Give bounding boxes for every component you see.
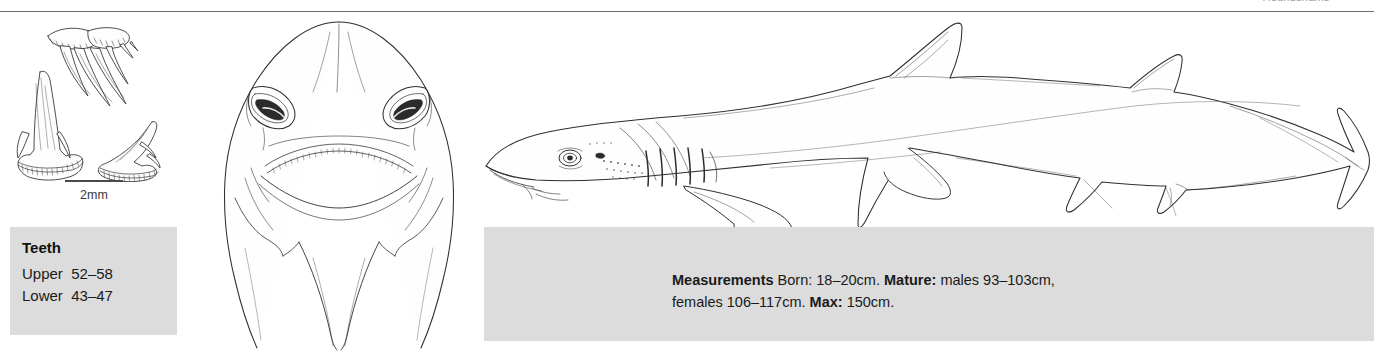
measurements-caption: Measurements Born: 18–20cm. Mature: male… <box>672 270 1092 314</box>
scale-bar-label: 2mm <box>52 188 136 202</box>
teeth-upper-label: Upper <box>22 265 63 282</box>
measurements-info-box: Measurements Born: 18–20cm. Mature: male… <box>484 227 1374 341</box>
shark-teeth-illustration <box>2 22 178 182</box>
measurements-born-label: Born: <box>778 272 813 288</box>
teeth-row-upper: Upper 52–58 <box>22 263 177 285</box>
header-rule <box>0 11 1374 12</box>
teeth-upper-value: 52–58 <box>71 265 113 282</box>
clipped-page-header: Houndsharks <box>1263 0 1330 3</box>
shark-head-ventral-illustration <box>193 18 485 351</box>
measurements-max-value: 150cm. <box>847 294 895 310</box>
teeth-lower-label: Lower <box>22 287 63 304</box>
teeth-info-box: Teeth Upper 52–58 Lower 43–47 <box>10 227 177 335</box>
teeth-row-lower: Lower 43–47 <box>22 285 177 307</box>
measurements-title: Measurements <box>672 272 774 288</box>
scale-bar-icon <box>65 180 123 182</box>
teeth-lower-value: 43–47 <box>71 287 113 304</box>
measurements-max-label: Max: <box>810 294 843 310</box>
scale-bar: 2mm <box>52 180 136 202</box>
measurements-born-value: 18–20cm. <box>816 272 880 288</box>
measurements-mature-label: Mature: <box>884 272 936 288</box>
teeth-box-title: Teeth <box>22 239 177 256</box>
